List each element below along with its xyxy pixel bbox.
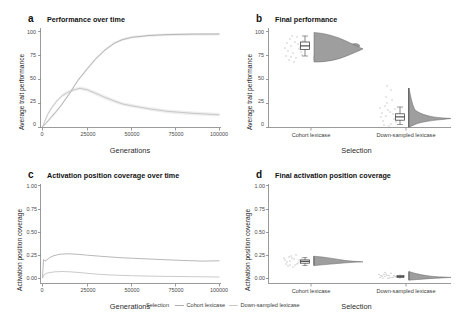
legend-item-downsampled[interactable]: Down-sampled lexicase <box>229 302 300 308</box>
panel-d-group-downsampled <box>378 272 451 281</box>
panel-d-violin-cohort <box>314 256 363 265</box>
panel-c: c Activation position coverage over time… <box>0 161 229 322</box>
legend-label-cohort: Cohort lexicase <box>187 302 226 308</box>
legend-title: Selection <box>146 302 169 308</box>
figure-root: a Performance over time Average trait pe… <box>0 0 458 322</box>
panel-d: d Final activation position coverage Act… <box>229 161 458 322</box>
panel-b-group-cohort <box>284 32 363 63</box>
legend-item-cohort[interactable]: Cohort lexicase <box>175 302 225 308</box>
panel-c-plot <box>0 161 229 322</box>
panel-d-violin-downsampled <box>409 272 451 281</box>
panel-a: a Performance over time Average trait pe… <box>0 0 229 161</box>
panel-b: b Final performance Average trait perfor… <box>229 0 458 161</box>
panel-c-series-cohort <box>43 254 220 278</box>
panel-b-group-downsampled <box>379 85 451 127</box>
panel-a-plot <box>0 0 229 161</box>
panel-b-violin-downsampled <box>409 88 451 127</box>
panel-b-plot <box>229 0 458 161</box>
legend-key-cohort-icon <box>175 305 184 306</box>
panel-d-group-cohort <box>283 254 363 267</box>
legend-label-downsampled: Down-sampled lexicase <box>241 302 300 308</box>
legend-key-downsampled-icon <box>229 305 238 306</box>
panel-c-series-downsampled <box>43 272 220 279</box>
figure-legend: Selection Cohort lexicase Down-sampled l… <box>146 302 300 308</box>
panel-d-plot <box>229 161 458 322</box>
